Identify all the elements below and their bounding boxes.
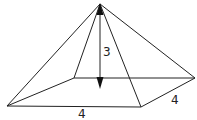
- base-side-label: 4: [171, 94, 179, 106]
- arrow-down-icon: [97, 77, 104, 89]
- base-left-edge: [7, 78, 74, 106]
- edge-front-left: [7, 4, 100, 106]
- pyramid-diagram: [0, 0, 197, 120]
- base-right-edge: [141, 78, 195, 107]
- edge-back-left: [74, 4, 100, 78]
- height-label: 3: [103, 46, 111, 58]
- base-front-label: 4: [78, 108, 86, 120]
- base-front-edge: [7, 106, 141, 107]
